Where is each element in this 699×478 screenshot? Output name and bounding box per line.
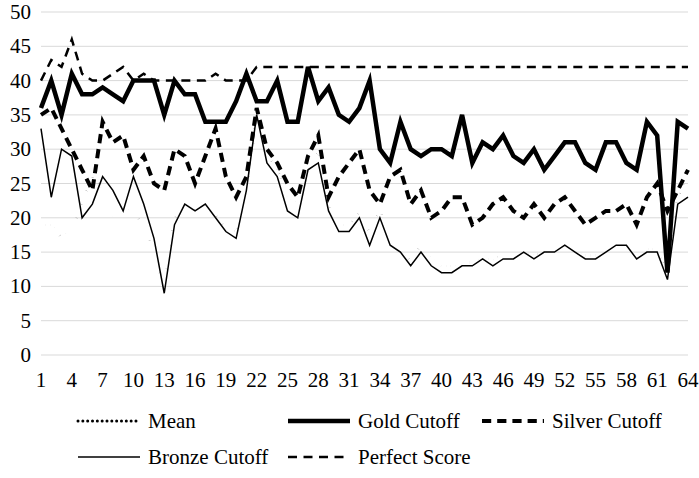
x-tick-label: 34	[369, 368, 391, 392]
y-tick-label: 5	[21, 309, 32, 333]
y-tick-label: 40	[10, 69, 31, 93]
x-tick-label: 40	[431, 368, 452, 392]
series-mean	[41, 115, 688, 290]
chart-legend: MeanGold CutoffSilver CutoffBronze Cutof…	[78, 409, 662, 469]
x-tick-label: 19	[215, 368, 236, 392]
x-tick-label: 4	[67, 368, 78, 392]
x-tick-label: 43	[462, 368, 483, 392]
legend-label-gold-cutoff: Gold Cutoff	[358, 409, 460, 433]
series-group	[41, 39, 688, 293]
line-chart: 05101520253035404550 1471013161922252831…	[0, 0, 699, 478]
series-bronze-cutoff	[41, 115, 688, 293]
y-axis-tick-labels: 05101520253035404550	[10, 0, 31, 367]
x-tick-label: 58	[616, 368, 637, 392]
x-tick-label: 49	[523, 368, 544, 392]
x-tick-label: 7	[97, 368, 108, 392]
x-tick-label: 10	[123, 368, 144, 392]
y-tick-label: 30	[10, 137, 31, 161]
y-tick-label: 0	[21, 343, 32, 367]
x-tick-label: 22	[246, 368, 267, 392]
x-axis-tick-labels: 1471013161922252831343740434649525558616…	[36, 368, 699, 392]
y-tick-label: 15	[10, 240, 31, 264]
legend-label-mean: Mean	[148, 409, 196, 433]
x-tick-label: 61	[647, 368, 668, 392]
x-tick-label: 37	[400, 368, 421, 392]
x-tick-label: 64	[678, 368, 699, 392]
x-tick-label: 25	[277, 368, 298, 392]
x-tick-label: 16	[185, 368, 206, 392]
chart-container: 05101520253035404550 1471013161922252831…	[0, 0, 699, 478]
x-tick-label: 31	[339, 368, 360, 392]
y-tick-label: 50	[10, 0, 31, 24]
y-tick-label: 20	[10, 206, 31, 230]
y-tick-label: 45	[10, 34, 31, 58]
y-tick-label: 35	[10, 103, 31, 127]
y-tick-label: 25	[10, 172, 31, 196]
x-tick-label: 46	[493, 368, 514, 392]
y-tick-label: 10	[10, 274, 31, 298]
x-tick-label: 1	[36, 368, 47, 392]
x-tick-label: 28	[308, 368, 329, 392]
x-tick-label: 13	[154, 368, 175, 392]
legend-label-perfect-score: Perfect Score	[358, 445, 471, 469]
legend-label-bronze-cutoff: Bronze Cutoff	[148, 445, 268, 469]
x-tick-label: 55	[585, 368, 606, 392]
x-tick-label: 52	[554, 368, 575, 392]
series-perfect-score	[41, 39, 688, 80]
gridlines-group	[41, 12, 688, 355]
legend-label-silver-cutoff: Silver Cutoff	[552, 409, 662, 433]
